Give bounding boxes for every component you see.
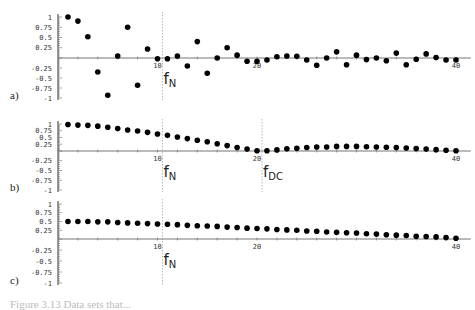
data-point [354, 144, 360, 150]
y-tick-label: -0.75 [31, 85, 52, 93]
data-point [294, 146, 300, 152]
data-point [314, 144, 320, 150]
y-tick-label: -1 [44, 95, 52, 103]
y-tick-label: -0.75 [31, 177, 52, 185]
data-point [185, 223, 191, 229]
data-point [274, 227, 280, 233]
data-point [75, 122, 81, 128]
data-point [294, 54, 300, 60]
data-point [423, 51, 429, 57]
x-tick-label: 10 [153, 62, 161, 70]
data-point [125, 127, 131, 133]
x-tick-label: 10 [153, 243, 161, 251]
data-point [264, 226, 270, 232]
data-point [374, 144, 380, 150]
data-point [413, 233, 419, 239]
y-tick-label: 0.25 [35, 227, 52, 235]
data-point [354, 52, 360, 58]
data-point [115, 220, 121, 226]
data-point [304, 57, 310, 63]
data-point [105, 219, 111, 225]
data-point [175, 134, 181, 140]
data-point [304, 145, 310, 151]
data-point [453, 236, 459, 242]
data-point [244, 225, 250, 231]
panel-b: 10.750.50.25-0.25-0.5-0.75-1102040b)fNfD… [10, 119, 471, 195]
y-tick-label: 0.5 [39, 34, 52, 42]
data-point [284, 146, 290, 152]
data-point [294, 227, 300, 233]
x-tick-label: 40 [452, 155, 460, 163]
panel-label: c) [10, 274, 19, 287]
data-point [334, 49, 340, 55]
y-tick-label: -0.75 [31, 269, 52, 277]
data-point [304, 228, 310, 234]
x-tick-label: 40 [452, 62, 460, 70]
data-point [155, 221, 161, 227]
data-point [254, 226, 260, 232]
data-point [314, 229, 320, 235]
data-point [214, 141, 220, 147]
data-point [324, 55, 330, 61]
data-point [95, 123, 101, 129]
data-point [384, 232, 390, 238]
data-point [324, 144, 330, 150]
data-point [85, 123, 91, 129]
frequency-marker-label: fN [163, 70, 176, 89]
data-point [423, 234, 429, 240]
y-tick-label: -0.5 [35, 75, 52, 83]
data-point [364, 231, 370, 237]
data-point [224, 224, 230, 230]
y-tick-label: 0.25 [35, 141, 52, 149]
data-point [364, 144, 370, 150]
data-point [324, 229, 330, 235]
data-point [433, 147, 439, 153]
data-point [244, 58, 250, 64]
data-point [65, 14, 71, 20]
data-point [65, 219, 71, 225]
y-tick-label: 0.25 [35, 44, 52, 52]
panel-label: a) [10, 89, 19, 102]
x-tick-label: 40 [452, 243, 460, 251]
data-point [125, 24, 131, 30]
x-tick-label: 10 [153, 155, 161, 163]
data-point [433, 55, 439, 61]
frequency-marker-label: fN [163, 163, 176, 182]
data-point [204, 223, 210, 229]
y-tick-label: 1 [48, 14, 52, 22]
x-tick-label: 20 [253, 243, 261, 251]
panel-a: 10.750.50.25-0.25-0.5-0.75-1102040a)fN [10, 12, 471, 103]
data-point [145, 130, 151, 136]
y-tick-label: -0.25 [31, 65, 52, 73]
data-point [443, 235, 449, 241]
data-point [234, 145, 240, 151]
data-point [284, 53, 290, 59]
data-point [165, 222, 171, 228]
data-point [135, 128, 141, 134]
data-point [145, 221, 151, 227]
data-point [185, 63, 191, 69]
data-point [65, 122, 71, 128]
data-point [314, 62, 320, 68]
y-tick-label: 0.5 [39, 218, 52, 226]
y-tick-label: -0.25 [31, 157, 52, 165]
data-point [413, 56, 419, 62]
data-point [75, 18, 81, 24]
data-point [115, 126, 121, 132]
data-point [403, 233, 409, 239]
data-point [224, 143, 230, 149]
data-point [364, 57, 370, 63]
data-point [274, 54, 280, 60]
frequency-marker-label: fDC [263, 163, 283, 182]
data-point [453, 57, 459, 63]
data-point [175, 222, 181, 228]
data-point [374, 55, 380, 61]
frequency-marker-label: fN [163, 251, 176, 270]
data-point [115, 53, 121, 59]
data-point [105, 124, 111, 130]
data-point [165, 133, 171, 139]
data-point [433, 234, 439, 240]
data-point [264, 148, 270, 154]
data-point [234, 52, 240, 58]
data-point [224, 45, 230, 51]
